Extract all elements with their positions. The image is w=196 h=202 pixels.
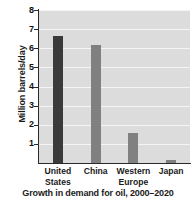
y-axis-tick-mark — [34, 144, 38, 145]
y-axis-tick-label: 3 — [12, 101, 34, 110]
y-axis-tick-mark — [34, 87, 38, 88]
y-axis-tick-mark — [34, 125, 38, 126]
x-axis-category-labels: United StatesChinaWestern EuropeJapan — [39, 166, 190, 188]
bar-chart-figure: Million barrels/day 87654321 United Stat… — [0, 0, 196, 202]
y-axis-tick-label: 4 — [12, 82, 34, 91]
y-axis-tick-label: 8 — [12, 6, 34, 15]
y-axis-tick-mark — [34, 29, 38, 30]
bar[interactable] — [128, 133, 138, 163]
y-axis-tick-label: 5 — [12, 63, 34, 72]
gridline — [39, 10, 190, 11]
gridline — [39, 29, 190, 30]
y-axis-tick-label: 1 — [12, 139, 34, 148]
chart-caption: Growth in demand for oil, 2000–2020 — [0, 188, 196, 198]
x-axis-category-label: China — [77, 166, 115, 177]
bar[interactable] — [91, 45, 101, 163]
y-axis-tick-label: 7 — [12, 25, 34, 34]
bar[interactable] — [166, 160, 176, 163]
y-axis-tick-label: 2 — [12, 120, 34, 129]
x-axis-category-label: United States — [39, 166, 77, 187]
y-axis-tick-mark — [34, 106, 38, 107]
x-axis-spine — [38, 163, 191, 164]
y-axis-tick-label: 6 — [12, 44, 34, 53]
y-axis-tick-mark — [34, 48, 38, 49]
plot-area — [39, 10, 190, 163]
y-axis-tick-labels: 87654321 — [10, 0, 34, 202]
y-axis-tick-mark — [34, 10, 38, 11]
y-axis-tick-mark — [34, 67, 38, 68]
x-axis-category-label: Japan — [152, 166, 190, 177]
bar[interactable] — [53, 36, 63, 163]
x-axis-category-label: Western Europe — [115, 166, 153, 187]
